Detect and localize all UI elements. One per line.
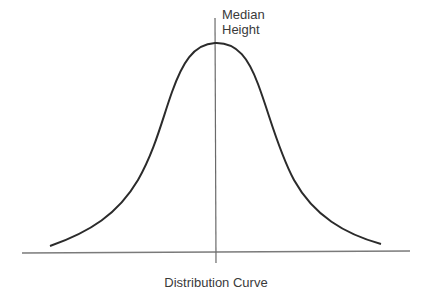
median-height-label: Median Height: [222, 7, 265, 37]
median-label-line1: Median: [222, 7, 265, 22]
bell-curve-graphic: [0, 0, 428, 294]
distribution-diagram: Median Height Distribution Curve: [0, 0, 428, 294]
diagram-caption: Distribution Curve: [0, 275, 428, 290]
median-line: [215, 18, 216, 263]
median-label-line2: Height: [222, 22, 265, 37]
